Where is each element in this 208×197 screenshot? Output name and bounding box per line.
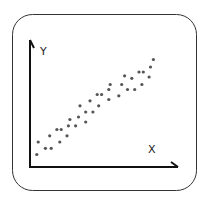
data-point <box>48 134 51 137</box>
data-point <box>91 110 94 113</box>
data-point <box>65 134 68 137</box>
data-point <box>100 93 103 96</box>
data-point <box>67 124 70 127</box>
data-point <box>97 104 100 107</box>
data-point <box>149 65 152 68</box>
y-axis-label: Y <box>40 45 47 58</box>
data-point <box>78 104 81 107</box>
data-point <box>130 77 133 80</box>
data-point <box>117 94 120 97</box>
data-point <box>84 120 87 123</box>
data-point <box>88 99 91 102</box>
data-point <box>60 128 63 131</box>
data-point <box>84 110 87 113</box>
data-point <box>55 128 58 131</box>
data-point <box>68 118 71 121</box>
icon-frame <box>13 15 197 191</box>
data-point <box>133 88 136 91</box>
data-point <box>77 115 80 118</box>
data-point <box>137 70 140 73</box>
data-point <box>152 58 155 61</box>
data-point <box>74 124 77 127</box>
data-point <box>120 83 123 86</box>
data-point <box>107 88 110 91</box>
data-point <box>44 147 47 150</box>
data-point <box>107 98 110 101</box>
data-point <box>58 140 61 143</box>
scatter-plot-icon <box>0 0 208 197</box>
data-point <box>148 75 151 78</box>
data-point <box>123 74 126 77</box>
data-point <box>37 140 40 143</box>
x-axis-label: X <box>148 143 156 156</box>
data-point <box>142 70 145 73</box>
data-point <box>50 147 53 150</box>
data-point <box>126 88 129 91</box>
data-point <box>35 153 38 156</box>
data-point <box>140 83 143 86</box>
data-point <box>96 93 99 96</box>
data-point <box>109 83 112 86</box>
